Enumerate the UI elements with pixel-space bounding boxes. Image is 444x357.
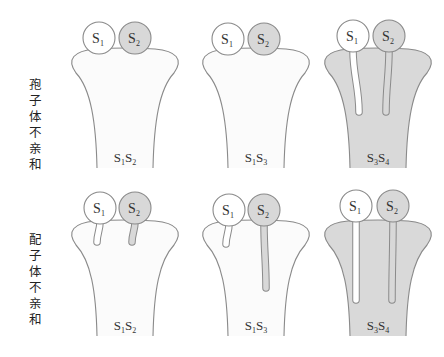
pollen-tube [132,222,135,242]
pollen-tube [386,50,389,112]
pollen-grain-s2: S2 [248,23,280,55]
pollination-diagram: S1S2S1S2S1S3S1S2S3S4S1S2S1S2S1S2S1S3S1S2… [0,0,444,357]
pistil-panel-s3s4: S3S4S1S2 [325,20,432,168]
pollen-tube [392,220,393,300]
pistil-panel-s1s3: S1S3S1S2 [203,23,310,168]
diagram-stage: 孢 子 体 不 亲 和 配 子 体 不 亲 和 S1S2S1S2S1S3S1S2… [0,0,444,357]
pollen-tube [226,224,229,244]
pollen-grain-s1: S1 [212,23,244,55]
pollen-grain-s2: S2 [119,22,151,54]
pollen-tube [264,224,266,288]
pollen-grain-s1: S1 [83,22,115,54]
pistil-panel-s3s4: S3S4S1S2 [325,190,432,336]
pistil-panel-s1s2: S1S2S1S2 [72,22,179,168]
pistil-panel-s1s3: S1S3S1S2 [203,194,310,336]
pistil-panel-s1s2: S1S2S1S2 [72,192,179,336]
pollen-tube [97,222,100,242]
